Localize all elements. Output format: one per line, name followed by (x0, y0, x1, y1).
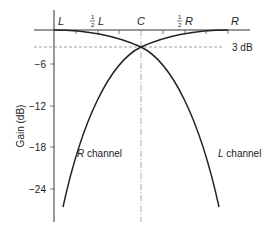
y-label-12: −12 (29, 101, 46, 112)
x-label-halfR: R (185, 15, 193, 27)
pan-law-chart: L 1 2 L C 1 2 R R 3 dB −6 −12 −18 −24 Ga… (0, 0, 273, 230)
x-label-C: C (137, 15, 145, 27)
l-channel-label: L channel (218, 148, 261, 159)
r-channel-label: R channel (77, 148, 122, 159)
l-channel-curve (54, 30, 219, 207)
x-label-R: R (231, 15, 239, 27)
x-label-halfL-num: 1 (91, 14, 95, 20)
y-label-24: −24 (29, 184, 46, 195)
x-label-halfR-den: 2 (178, 22, 182, 28)
x-label-halfR-num: 1 (178, 14, 182, 20)
r-channel-curve (63, 30, 228, 207)
y-label-18: −18 (29, 142, 46, 153)
x-label-halfL-den: 2 (91, 22, 95, 28)
y-axis-title: Gain (dB) (15, 105, 26, 148)
x-label-halfL: L (98, 15, 104, 27)
y-ticks (50, 64, 54, 189)
y-label-6: −6 (35, 59, 47, 70)
x-label-L: L (58, 15, 64, 27)
reference-label: 3 dB (232, 42, 253, 53)
